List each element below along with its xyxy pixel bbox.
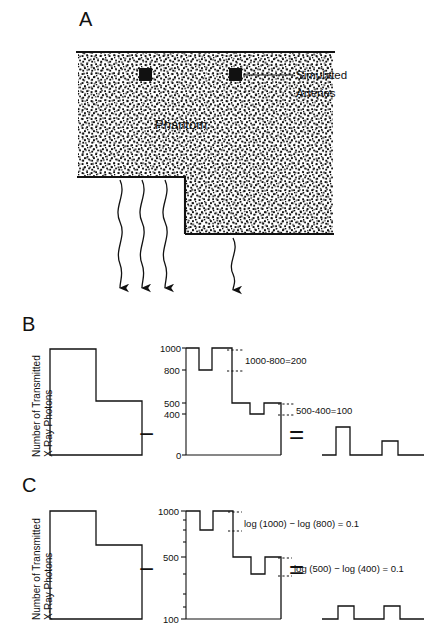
panel-b-annotation-1: 1000-800=200	[245, 355, 307, 366]
panel-c-middle-plot: 1000 500 100 log (1000) − log (800) = 0.…	[158, 506, 404, 625]
panel-b-difference-trace	[322, 427, 424, 455]
panel-b-ticklabel-0: 0	[176, 450, 181, 461]
panel-c-equals-sign: =	[289, 554, 304, 584]
simulated-artery-square-1	[139, 68, 152, 81]
panel-c-difference-trace	[322, 606, 424, 619]
xray-beam-arrows-thick	[231, 238, 235, 290]
beam-arrow-4	[231, 238, 235, 290]
figure-root: A Simulated Arteries Phantom	[0, 0, 443, 634]
panel-c-minus-sign: −	[139, 554, 154, 584]
panel-a-letter: A	[79, 8, 93, 30]
simulated-artery-square-2	[229, 68, 242, 81]
panel-c-letter: C	[22, 474, 36, 496]
panel-b-left-plot	[50, 349, 142, 455]
phantom-fill-overlay	[78, 53, 333, 234]
panel-b-ticklabel-400: 400	[164, 409, 180, 420]
panel-c-left-plot	[50, 511, 142, 619]
panel-b-letter: B	[22, 313, 35, 335]
panel-b-ticklabel-800: 800	[164, 365, 180, 376]
panel-c-ticklabel-1000: 1000	[158, 506, 179, 517]
panel-c-annotation-2: log (500) − log (400) = 0.1	[294, 563, 404, 574]
panel-c-right-plot	[322, 606, 424, 619]
panel-a: A Simulated Arteries Phantom	[76, 8, 347, 290]
beam-arrow-1	[118, 180, 122, 288]
panel-c-annotation-1: log (1000) − log (800) = 0.1	[244, 518, 359, 529]
simulated-arteries-label-line1: Simulated	[296, 69, 347, 81]
panel-c-ticklabel-100: 100	[163, 614, 179, 625]
panel-c-y-axis-label-line2: X-Ray Photons	[43, 553, 54, 620]
simulated-arteries-label-line2: Arteries	[296, 87, 336, 99]
panel-b-annotation-2: 500-400=100	[296, 405, 352, 416]
panel-b-minus-sign: −	[139, 419, 154, 449]
panel-c-y-axis-label-line1: Number of Transmitted	[31, 518, 42, 620]
panel-b-equals-sign: =	[289, 419, 304, 449]
panel-c-ticklabel-500: 500	[163, 552, 179, 563]
panel-b-left-trace	[50, 349, 142, 455]
panel-c: C Number of Transmitted X-Ray Photons −	[22, 474, 424, 625]
xray-beam-arrows-thin	[118, 180, 167, 288]
phantom-label: Phantom	[155, 117, 207, 132]
beam-arrow-3	[163, 180, 167, 288]
panel-b-ticklabel-1000: 1000	[160, 343, 181, 354]
beam-arrow-2	[140, 180, 144, 288]
panel-b-y-axis-label-line2: X-Ray Photons	[43, 390, 54, 457]
panel-b-ticklabel-500: 500	[164, 398, 180, 409]
panel-b: B Number of Transmitted X-Ray Photons − …	[22, 313, 424, 461]
panel-c-left-trace	[50, 511, 142, 619]
panel-b-right-plot	[322, 427, 424, 455]
panel-b-middle-plot: 1000 800 500 400 0 1000-800=200 500-400=…	[160, 343, 352, 461]
panel-b-y-axis-label-line1: Number of Transmitted	[31, 355, 42, 457]
